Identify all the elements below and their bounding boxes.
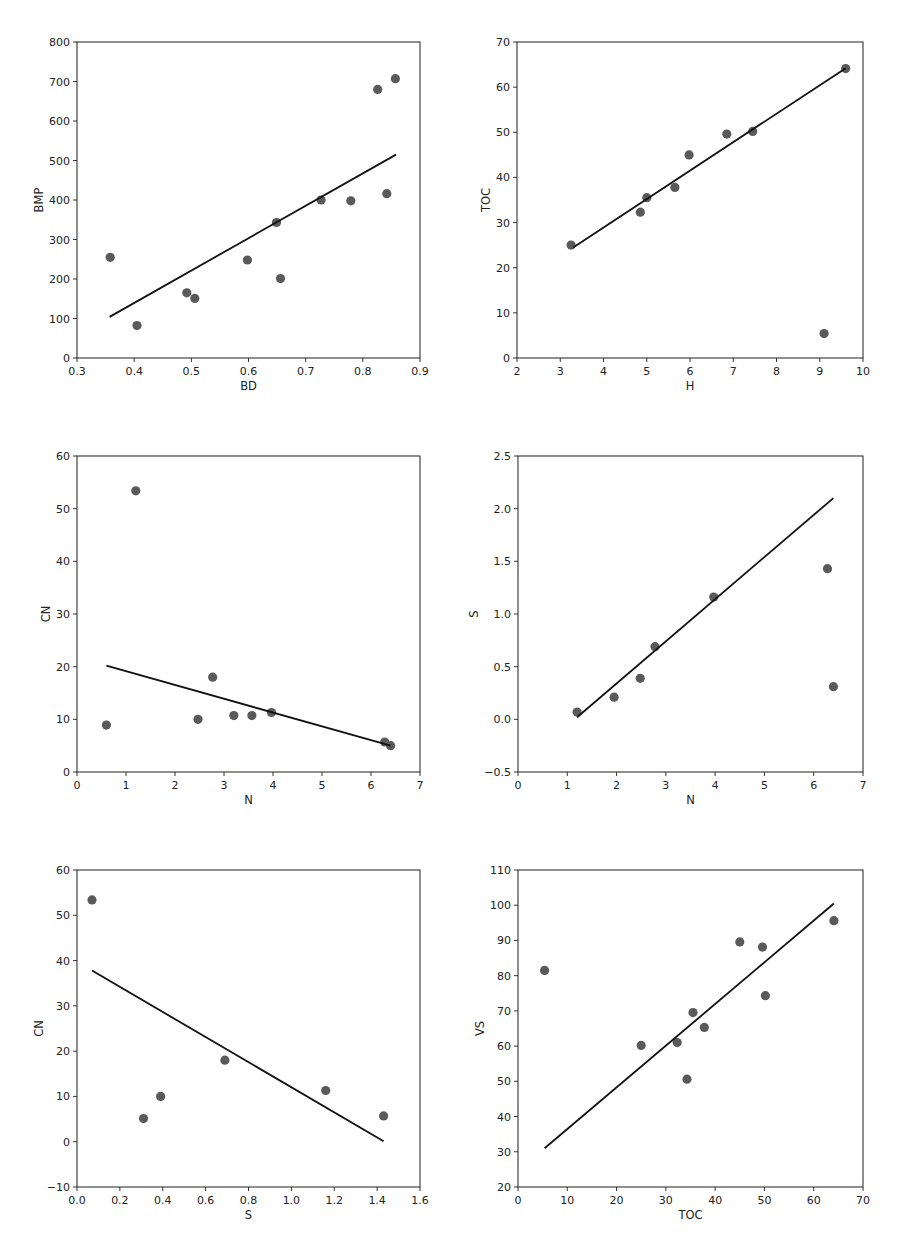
x-tick-label: 1 [123,779,130,792]
data-point [247,711,256,720]
y-tick-label: 1.5 [494,555,512,568]
x-tick-label: 1.6 [411,1194,429,1207]
y-tick-label: 20 [56,661,70,674]
y-tick-label: 700 [49,76,70,89]
x-tick-label: 2 [613,779,620,792]
y-axis-label: VS [473,1021,487,1036]
y-tick-label: 50 [56,503,70,516]
y-tick-label: 30 [56,608,70,621]
y-tick-label: 30 [496,217,510,230]
y-tick-label: 110 [490,864,511,877]
x-tick-label: 7 [860,779,867,792]
y-tick-label: 100 [49,313,70,326]
y-tick-label: 300 [49,234,70,247]
y-axis-label: CN [32,1020,46,1037]
y-tick-label: 0.5 [494,661,512,674]
data-point [208,673,217,682]
data-point [682,1075,691,1084]
x-tick-label: 70 [856,1194,870,1207]
data-point [102,721,111,730]
x-tick-label: 0.4 [154,1194,172,1207]
y-tick-label: 0 [63,352,70,365]
data-point [382,189,391,198]
x-tick-label: 0 [515,779,522,792]
x-tick-label: 2 [514,365,521,378]
y-tick-label: 40 [56,555,70,568]
x-tick-label: 0.0 [68,1194,86,1207]
x-tick-label: 5 [761,779,768,792]
data-point [610,693,619,702]
data-point [156,1092,165,1101]
x-axis-label: TOC [677,1208,702,1222]
y-tick-label: 10 [56,713,70,726]
x-tick-label: 0.8 [240,1194,258,1207]
x-tick-label: 0.5 [183,365,201,378]
y-tick-label: 20 [496,262,510,275]
data-point [637,1041,646,1050]
data-point [182,288,191,297]
y-tick-label: 0 [63,766,70,779]
y-tick-label: 10 [496,307,510,320]
x-tick-label: 60 [807,1194,821,1207]
x-axis-label: N [244,793,253,807]
y-tick-label: 50 [496,126,510,139]
data-point [829,682,838,691]
x-tick-label: 8 [773,365,780,378]
data-point [87,895,96,904]
x-tick-label: 7 [730,365,737,378]
y-tick-label: 60 [56,450,70,463]
y-axis-label: CN [39,606,53,623]
y-tick-label: 20 [56,1045,70,1058]
y-tick-label: 60 [497,1040,511,1053]
x-tick-label: 4 [712,779,719,792]
data-point [229,711,238,720]
data-point [193,715,202,724]
data-point [758,943,767,952]
data-point [685,150,694,159]
y-tick-label: 30 [56,1000,70,1013]
x-tick-label: 6 [810,779,817,792]
y-tick-label: 600 [49,115,70,128]
x-tick-label: 50 [757,1194,771,1207]
data-point [139,1114,148,1123]
y-tick-label: 40 [56,955,70,968]
figure-background [0,0,900,1236]
data-point [820,329,829,338]
x-tick-label: 0.9 [411,365,429,378]
y-axis-label: BMP [32,188,46,213]
y-axis-label: TOC [479,188,493,213]
data-point [132,321,141,330]
data-point [636,674,645,683]
y-tick-label: 10 [56,1090,70,1103]
y-tick-label: 40 [497,1111,511,1124]
y-tick-label: −10 [47,1181,70,1194]
y-tick-label: 100 [490,899,511,912]
data-point [321,1086,330,1095]
data-point [722,130,731,139]
x-tick-label: 0.7 [297,365,315,378]
x-tick-label: 6 [368,779,375,792]
y-tick-label: 20 [497,1181,511,1194]
x-tick-label: 3 [221,779,228,792]
data-point [373,85,382,94]
x-tick-label: 0.6 [240,365,258,378]
data-point [379,1111,388,1120]
y-tick-label: 80 [497,970,511,983]
y-tick-label: 50 [56,909,70,922]
y-tick-label: 90 [497,934,511,947]
data-point [190,294,199,303]
data-point [688,1008,697,1017]
y-tick-label: 30 [497,1146,511,1159]
x-tick-label: 4 [270,779,277,792]
x-tick-label: 1.2 [326,1194,344,1207]
y-tick-label: 200 [49,273,70,286]
data-point [346,196,355,205]
x-axis-label: S [245,1208,252,1222]
data-point [735,937,744,946]
x-tick-label: 5 [643,365,650,378]
y-tick-label: 0 [63,1136,70,1149]
x-tick-label: 1 [564,779,571,792]
x-tick-label: 0.4 [125,365,143,378]
x-tick-label: 1.0 [283,1194,301,1207]
x-tick-label: 3 [557,365,564,378]
